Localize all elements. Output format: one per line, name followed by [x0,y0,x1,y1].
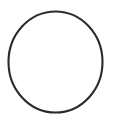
background-rect [0,0,113,123]
image-canvas: Circle Outline A single unfilled dark ci… [0,0,113,123]
circle-outline-svg [0,0,113,123]
